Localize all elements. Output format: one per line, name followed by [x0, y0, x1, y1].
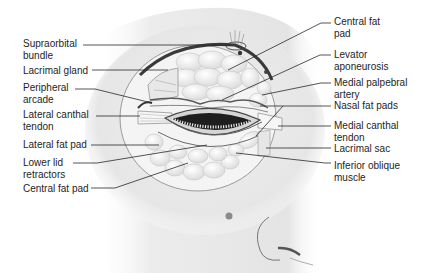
medial-palpebral-artery-dot	[264, 70, 268, 74]
label-levator-aponeurosis: Levator aponeurosis	[334, 49, 388, 72]
label-medial-palpebral-artery: Medial palpebral artery	[334, 77, 407, 100]
label-lateral-fat-pad: Lateral fat pad	[23, 139, 87, 151]
label-lower-lid-retractors: Lower lid retractors	[23, 157, 65, 180]
label-lateral-canthal-tendon: Lateral canthal tendon	[23, 109, 89, 132]
skin-mole	[226, 213, 233, 220]
label-nasal-fat-pads: Nasal fat pads	[334, 100, 398, 112]
label-peripheral-arcade: Peripheral arcade	[23, 82, 69, 105]
label-lacrimal-sac: Lacrimal sac	[334, 143, 390, 155]
label-lacrimal-gland: Lacrimal gland	[23, 65, 88, 77]
label-medial-canthal-tendon: Medial canthal tendon	[334, 120, 398, 143]
lacrimal-sac	[258, 130, 270, 156]
label-central-fat-pad-upper: Central fat pad	[334, 16, 380, 39]
label-inferior-oblique-muscle: Inferior oblique muscle	[334, 160, 400, 183]
label-central-fat-pad-lower: Central fat pad	[23, 183, 89, 195]
label-supraorbital-bundle: Supraorbital bundle	[23, 38, 77, 61]
